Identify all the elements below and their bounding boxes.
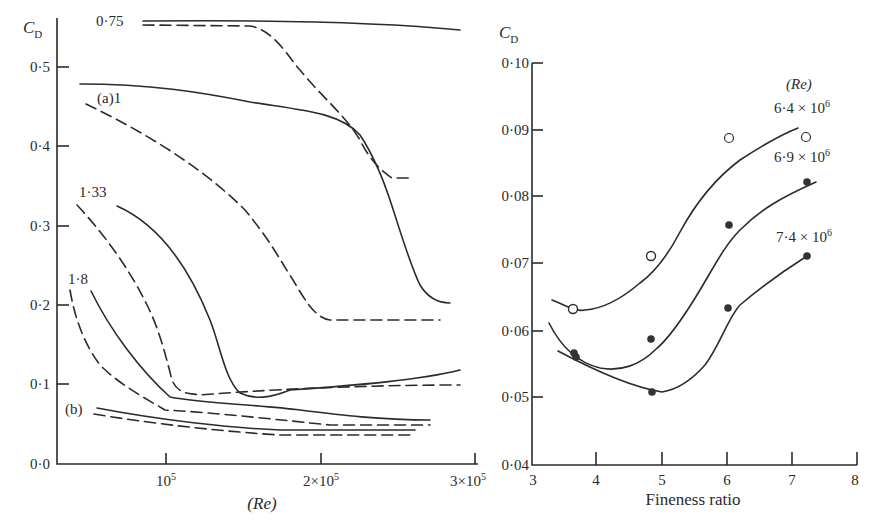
x-tick-label: 105: [156, 471, 176, 489]
y-tick-label: 0·0: [30, 456, 50, 472]
x-tick-label: 4: [592, 472, 600, 488]
y-tick-label: 0·3: [30, 218, 50, 234]
left-chart: 0·5 0·4 0·3 0·2 0·1 0·0 CD 105 2×105 3×1…: [23, 13, 486, 513]
curve-6.4e6: [552, 128, 798, 310]
right-chart: 0·10 0·09 0·08 0·07 0·06 0·05 0·04 CD 3 …: [499, 23, 859, 509]
curve-7.4e6: [558, 256, 807, 392]
x-tick-label: 2×105: [303, 471, 339, 489]
curve-a1-dashed: [86, 104, 440, 320]
left-y-ticks: [57, 67, 69, 384]
curve-label-1.33: 1·33: [79, 184, 107, 200]
curve-1.8-solid: [91, 291, 430, 420]
y-axis-label: CD: [499, 23, 518, 45]
y-tick-label: 0·1: [30, 376, 50, 392]
series-label-7.4e6: 7·4 × 106: [776, 227, 832, 245]
curve-6.9e6: [549, 182, 816, 369]
figure-canvas: 0·5 0·4 0·3 0·2 0·1 0·0 CD 105 2×105 3×1…: [0, 0, 874, 521]
curve-1.33-dashed: [77, 205, 460, 395]
y-tick-label: 0·4: [30, 138, 50, 154]
curve-label-1.8: 1·8: [68, 271, 88, 287]
right-axes: [532, 63, 857, 465]
curve-label-0.75: 0·75: [96, 13, 124, 29]
series-label-6.4e6: 6·4 × 106: [774, 98, 830, 116]
x-tick-label: 5: [658, 472, 666, 488]
x-axis-label: Fineness ratio: [646, 490, 741, 509]
x-axis-label: (Re): [247, 494, 277, 513]
x-tick-label: 7: [788, 472, 796, 488]
curve-0.75-solid: [143, 21, 460, 30]
y-tick-label: 0·07: [502, 255, 530, 271]
right-y-ticks: [532, 63, 543, 397]
y-tick-label: 0·2: [30, 297, 50, 313]
y-tick-label: 0·08: [502, 188, 530, 204]
y-tick-label: 0·05: [502, 389, 530, 405]
x-tick-label: 3×105: [450, 471, 486, 489]
legend-title: (Re): [786, 76, 812, 93]
curve-label-a1: (a)1: [97, 90, 121, 107]
y-tick-label: 0·09: [502, 122, 530, 138]
x-tick-label: 8: [851, 472, 859, 488]
markers-6.9e6: [570, 178, 811, 357]
curve-b-solid: [97, 408, 415, 430]
curve-a1-solid: [80, 84, 450, 303]
curve-label-b: (b): [65, 401, 83, 418]
x-tick-label: 6: [723, 472, 731, 488]
left-x-ticks: [166, 453, 475, 464]
y-axis-label: CD: [23, 18, 42, 40]
y-tick-label: 0·10: [502, 55, 530, 71]
series-label-6.9e6: 6·9 × 106: [774, 147, 830, 165]
x-tick-label: 3: [529, 472, 537, 488]
y-tick-label: 0·04: [502, 457, 530, 473]
right-x-ticks: [596, 452, 857, 465]
y-tick-label: 0·5: [30, 59, 50, 75]
y-tick-label: 0·06: [502, 323, 530, 339]
